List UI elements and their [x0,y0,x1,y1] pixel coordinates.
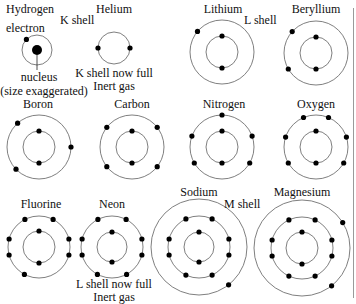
electron-dot [189,134,194,139]
electron-dot [286,217,291,222]
electron-dot [22,272,27,277]
electron-dot [270,253,275,258]
atom-lithium [190,20,254,84]
electron-dot [270,237,275,242]
electron-dot [313,274,318,279]
shell-ring-1 [116,131,148,163]
electron-dot [329,283,334,288]
shell-ring-2 [190,115,254,179]
atom-oxygen [283,115,349,179]
electron-dot [219,160,224,165]
electron-dot [195,29,200,34]
electron-dot [15,121,20,126]
electron-dot [283,135,288,140]
electron-dot [290,29,295,34]
electron-dot [299,229,304,234]
oxygen-label: Oxygen [297,98,335,111]
electron-dot [344,135,349,140]
shell-ring-1 [206,36,238,68]
nucleus-dot [32,45,42,55]
electron-dot [36,160,41,165]
electron-dot [95,217,100,222]
shell-ring-2 [190,20,254,84]
electron-dot [183,216,188,221]
electron-dot [22,217,27,222]
boron-label: Boron [23,98,53,111]
shell-ring-1 [286,232,318,264]
shell-ring-2 [8,216,70,278]
shell-ring-1 [98,32,130,64]
electron-dot [313,217,318,222]
sodium-label: Sodium [180,186,217,199]
electron-dot [51,217,56,222]
shell-ring-1 [206,131,238,163]
electron-dot [36,228,41,233]
nitrogen-label: Nitrogen [203,98,246,111]
carbon-label: Carbon [114,98,149,111]
electron-dot [226,236,231,241]
electron-dot [13,167,18,172]
electron-dot [313,66,318,71]
electron-dot [313,128,318,133]
helium-note-inert-gas: Inert gas [93,80,135,93]
electron-dot [192,160,197,165]
electron-dot [167,236,172,241]
shell-ring-1 [23,231,55,263]
electron-dot [210,216,215,221]
electron-dot [341,160,346,165]
electron-dot [329,237,334,242]
electron-dot [129,128,134,133]
atom-neon [80,216,145,278]
electron-dot [219,65,224,70]
electron-dot [109,259,114,264]
neon-note-inert-gas: Inert gas [93,291,135,304]
nucleus-annotation: nucleus [21,71,58,84]
electron-dot [226,252,231,257]
electron-dot [196,229,201,234]
electron-dot [299,261,304,266]
electron-dot [329,253,334,258]
shell-ring-1 [300,37,332,69]
electron-dot [326,115,331,120]
neon-label: Neon [99,198,125,211]
electron-annotation: electron [6,22,45,35]
shell-ring-3 [151,199,247,295]
electron-dot [139,236,144,241]
electron-dot [129,160,134,165]
electron-dot [340,220,345,225]
electron-dot [80,236,85,241]
electron-dot [155,125,160,130]
page-edge-line [353,8,354,298]
electron-dot [196,259,201,264]
electron-dot [286,274,291,279]
atom-beryllium [284,21,348,85]
k-shell-annotation: K shell [60,14,94,27]
electron-dot [95,45,100,50]
electron-dot [127,45,132,50]
magnesium-label: Magnesium [274,186,331,199]
atom-helium [95,32,132,64]
atom-magnesium [254,200,350,296]
atom-sodium [151,199,247,295]
electron-dot [219,33,224,38]
electron-dot [36,260,41,265]
helium-label: Helium [96,3,132,16]
electron-dot [7,252,12,257]
electron-dot [24,37,29,42]
m-shell-annotation: M shell [224,198,260,211]
electron-dot [124,217,129,222]
shell-ring-1 [23,131,55,163]
electron-dot [36,128,41,133]
fluorine-label: Fluorine [21,198,62,211]
electron-dot [104,164,109,169]
electron-dot [109,229,114,234]
electron-dot [286,160,291,165]
electron-dot [66,236,71,241]
shell-ring-2 [271,217,333,279]
atom-hydrogen [22,35,52,70]
shell-ring-2 [168,216,230,278]
electron-dot [68,144,73,149]
atom-fluorine [7,216,72,278]
